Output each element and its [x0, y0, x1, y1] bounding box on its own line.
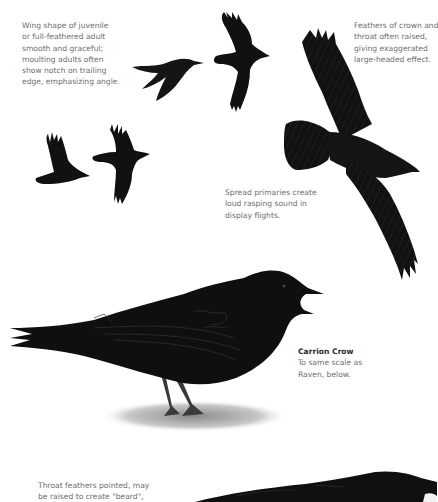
carrion-crow-perched-illustration — [4, 268, 334, 433]
annotation-wing-shape: Wing shape of juvenile or full-feathered… — [22, 20, 120, 88]
annotation-line: or full-feathered adult — [22, 31, 120, 42]
crow-flying-small-left-illustration — [32, 130, 92, 185]
annotation-throat-feathers: Throat feathers pointed, may be raised t… — [38, 480, 149, 502]
annotation-line: show notch on trailing — [22, 65, 120, 76]
annotation-line: be raised to create "beard", — [38, 491, 149, 502]
crow-gliding-side-illustration — [130, 55, 205, 103]
raven-head-partial-illustration — [195, 470, 437, 502]
crow-flying-upstroke-illustration — [210, 10, 272, 115]
crow-soaring-large-illustration — [282, 28, 437, 283]
annotation-line: Throat feathers pointed, may — [38, 480, 149, 491]
annotation-line: edge, emphasizing angle. — [22, 76, 120, 87]
annotation-line: Wing shape of juvenile — [22, 20, 120, 31]
crow-flying-small-right-illustration — [90, 122, 152, 207]
annotation-line: moulting adults often — [22, 54, 120, 65]
annotation-line: smooth and graceful; — [22, 43, 120, 54]
